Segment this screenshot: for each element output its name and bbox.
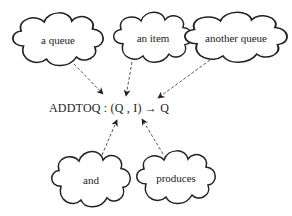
arrow-produces	[142, 119, 163, 154]
cloud-label-produces: produces	[156, 172, 196, 184]
arrow-and	[102, 120, 117, 155]
arrow-a-queue	[74, 64, 103, 94]
cloud-label-a-queue: a queue	[41, 34, 75, 46]
cloud-label-another-queue: another queue	[205, 32, 267, 44]
cloud-label-an-item: an item	[137, 32, 170, 44]
addtoq-diagram: a queue an item another queue and produc…	[0, 0, 292, 216]
arrow-another-queue	[158, 60, 210, 98]
addtoq-signature: ADDTOQ : (Q , I) → Q	[49, 101, 169, 116]
arrow-an-item	[126, 62, 132, 96]
cloud-label-and: and	[83, 174, 99, 186]
